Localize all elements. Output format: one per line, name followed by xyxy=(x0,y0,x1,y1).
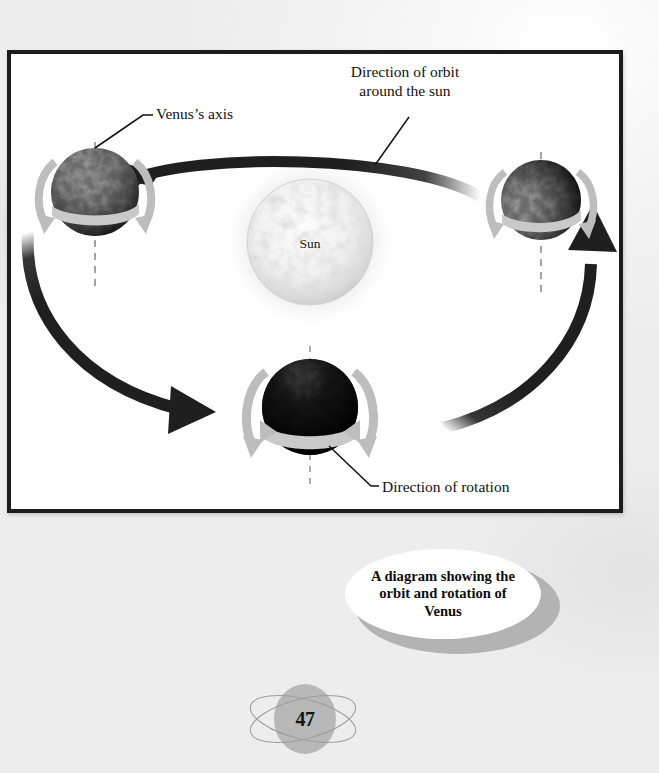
label-direction-of-orbit: Direction of orbit around the sun xyxy=(351,63,460,165)
page-number-badge: 47 xyxy=(243,682,363,756)
label-direction-of-rotation: Direction of rotation xyxy=(329,446,510,495)
venus-orbit-diagram: Sun xyxy=(11,54,619,509)
planet-venus-right xyxy=(487,152,596,298)
caption-line-1: A diagram showing the xyxy=(371,568,515,584)
figure-caption: A diagram showing the orbit and rotation… xyxy=(345,549,560,654)
venus-axis-label-text: Venus’s axis xyxy=(156,105,233,122)
caption-face: A diagram showing the orbit and rotation… xyxy=(345,549,541,639)
caption-line-2: orbit and rotation of xyxy=(379,585,506,601)
direction-of-orbit-label-line1: Direction of orbit xyxy=(351,63,460,80)
sun-label: Sun xyxy=(299,236,320,251)
label-venus-axis: Venus’s axis xyxy=(95,105,233,148)
direction-of-orbit-label-line2: around the sun xyxy=(359,82,451,99)
figure-frame: Sun xyxy=(7,50,623,513)
direction-of-rotation-label-text: Direction of rotation xyxy=(382,478,510,495)
sun: Sun xyxy=(222,154,398,330)
planet-venus-bottom xyxy=(243,346,377,490)
page-number: 47 xyxy=(243,682,363,756)
caption-line-3: Venus xyxy=(424,603,462,619)
caption-text: A diagram showing the orbit and rotation… xyxy=(363,568,523,620)
planet-venus-left xyxy=(37,142,153,292)
orbit-arrow-left xyxy=(28,232,216,434)
